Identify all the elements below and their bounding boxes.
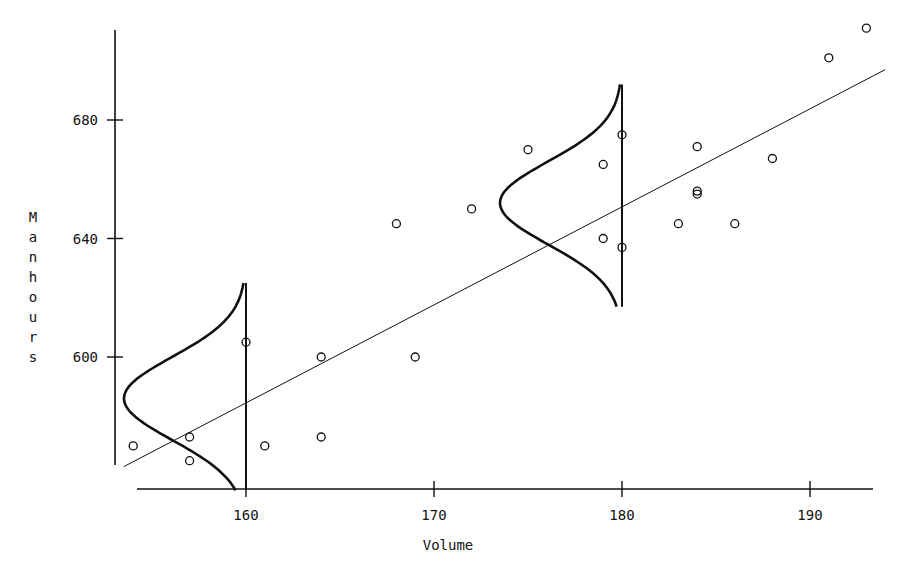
data-point bbox=[825, 54, 833, 62]
normal-curve bbox=[124, 283, 244, 490]
regression-line bbox=[124, 70, 885, 467]
data-point bbox=[768, 155, 776, 163]
x-axis-label: Volume bbox=[423, 537, 474, 553]
data-point bbox=[468, 205, 476, 213]
data-point bbox=[411, 353, 419, 361]
data-point bbox=[862, 24, 870, 32]
normal-curves bbox=[124, 84, 622, 490]
data-points bbox=[129, 24, 870, 465]
y-axis-label-char: r bbox=[29, 329, 37, 345]
data-point bbox=[261, 442, 269, 450]
axes bbox=[115, 30, 873, 489]
y-axis-label-char: n bbox=[29, 249, 37, 265]
regression-chart: 600640680 160170180190 Volume Manhours bbox=[0, 0, 898, 580]
y-axis-label: Manhours bbox=[29, 209, 37, 365]
data-point bbox=[317, 353, 325, 361]
data-point bbox=[392, 220, 400, 228]
y-axis-label-char: u bbox=[29, 309, 37, 325]
x-tick-label: 180 bbox=[609, 507, 634, 523]
data-point bbox=[693, 143, 701, 151]
y-tick-label: 640 bbox=[73, 231, 98, 247]
data-point bbox=[317, 433, 325, 441]
data-point bbox=[731, 220, 739, 228]
y-axis-label-char: s bbox=[29, 349, 37, 365]
x-tick-label: 170 bbox=[421, 507, 446, 523]
data-point bbox=[599, 235, 607, 243]
y-axis-label-char: M bbox=[29, 209, 37, 225]
data-point bbox=[186, 433, 194, 441]
data-point bbox=[129, 442, 137, 450]
x-tick-label: 160 bbox=[233, 507, 258, 523]
data-point bbox=[524, 146, 532, 154]
data-point bbox=[674, 220, 682, 228]
data-point bbox=[186, 457, 194, 465]
x-tick-label: 190 bbox=[797, 507, 822, 523]
y-tick-label: 600 bbox=[73, 349, 98, 365]
data-point bbox=[599, 160, 607, 168]
y-axis-label-char: h bbox=[29, 269, 37, 285]
y-axis-label-char: o bbox=[29, 289, 37, 305]
normal-curve bbox=[500, 84, 620, 306]
y-tick-label: 680 bbox=[73, 112, 98, 128]
x-ticks: 160170180190 bbox=[233, 481, 822, 523]
y-axis-label-char: a bbox=[29, 229, 37, 245]
